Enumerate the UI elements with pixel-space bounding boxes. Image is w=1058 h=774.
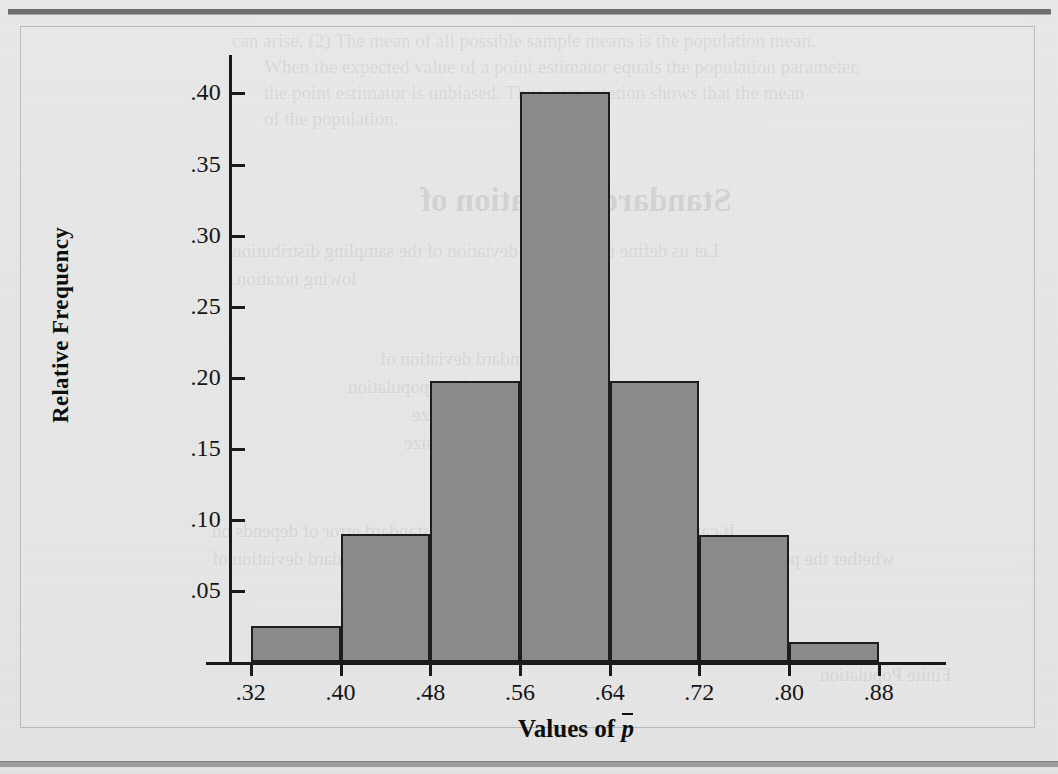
figure-frame: .05.10.15.20.25.30.35.40 .32.40.48.56.64… [20,26,1035,728]
y-axis-tick-label: .35 [165,151,221,178]
scanned-page: can arise. (2) The mean of all possible … [0,0,1058,774]
x-axis-tick [609,665,612,676]
x-axis-tick-label: .32 [211,679,291,706]
histogram-bar [610,381,700,662]
histogram-bar [430,381,520,662]
y-axis-tick [232,164,245,167]
x-axis-tick-label: .56 [480,679,560,706]
x-axis-tick [788,665,791,676]
bottom-rule-divider [0,761,1058,767]
top-rule-divider [8,9,1051,14]
histogram-bar [789,642,879,662]
x-axis-tick [519,665,522,676]
x-axis-tick [698,665,701,676]
x-axis-tick-label: .64 [570,679,650,706]
x-axis-tick [878,665,881,676]
x-axis-tick-label: .80 [749,679,829,706]
y-axis-tick [232,306,245,309]
histogram-bar [341,534,431,662]
y-axis-tick-label: .40 [165,79,221,106]
x-axis-tick [429,665,432,676]
y-axis-tick-label: .25 [165,293,221,320]
y-axis-line [229,55,232,665]
x-axis-tick-label: .48 [390,679,470,706]
y-axis-tick [232,92,245,95]
x-axis-line [206,662,946,665]
x-axis-tick-label: .40 [301,679,381,706]
y-axis-tick-label: .10 [165,506,221,533]
y-axis-tick-label: .15 [165,435,221,462]
y-axis-tick [232,235,245,238]
x-axis-tick [250,665,253,676]
y-axis-title: Relative Frequency [48,175,74,475]
x-axis-tick-label: .88 [839,679,919,706]
y-axis-tick [232,519,245,522]
x-axis-title-prefix: Values of [518,715,621,742]
y-axis-tick-label: .05 [165,577,221,604]
y-axis-tick-label: .30 [165,222,221,249]
x-axis-variable-p-bar: p [621,715,634,743]
x-axis-tick-label: .72 [659,679,739,706]
histogram-plot: .05.10.15.20.25.30.35.40 .32.40.48.56.64… [21,27,1036,729]
y-axis-tick-label: .20 [165,364,221,391]
histogram-bar [520,92,610,662]
y-axis-tick [232,377,245,380]
y-axis-tick [232,448,245,451]
x-axis-title: Values of p [206,715,946,743]
histogram-bar [251,626,341,662]
histogram-bar [699,535,789,662]
y-axis-tick [232,590,245,593]
x-axis-tick [340,665,343,676]
